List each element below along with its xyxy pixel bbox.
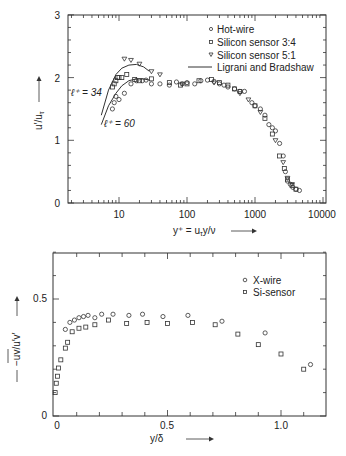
square-marker [77, 326, 81, 330]
legend-silicon-51: Silicon sensor 5:1 [217, 50, 296, 61]
circle-marker [110, 107, 114, 111]
top-chart: 3 2 1 0 10 100 1000 10000 u′/uτ y⁺ = uτy… [33, 10, 336, 237]
square-marker [145, 320, 149, 324]
circle-marker [111, 312, 115, 316]
circle-marker [277, 141, 281, 145]
bottom-ticks [53, 252, 326, 416]
square-marker [57, 366, 61, 370]
square-marker [84, 325, 88, 329]
square-marker [55, 374, 59, 378]
circle-marker [267, 123, 271, 127]
triangle-marker [149, 70, 154, 74]
legend-silicon-34: Silicon sensor 3:4 [217, 37, 296, 48]
bottom-legend: X-wire Si-sensor [243, 275, 296, 298]
square-marker [213, 323, 217, 327]
circle-marker [217, 82, 221, 86]
circle-marker [86, 313, 90, 317]
arrow-up-icon [15, 296, 20, 301]
circle-marker [149, 82, 153, 86]
legend-x-wire: X-wire [253, 275, 282, 286]
circle-marker [93, 316, 97, 320]
top-xtick-1000: 1000 [244, 209, 267, 220]
circle-marker [185, 81, 189, 85]
arrow-right-icon [209, 437, 214, 442]
svg-text:y⁺ = uτy/ν: y⁺ = uτy/ν [173, 225, 216, 237]
circle-marker [263, 331, 267, 335]
top-xtick-10: 10 [113, 209, 125, 220]
circle-marker [127, 313, 131, 317]
circle-marker [129, 82, 133, 86]
top-xlabel: y⁺ = uτy/ν [173, 225, 257, 237]
top-xtick-100: 100 [179, 209, 196, 220]
square-marker [125, 72, 129, 76]
circle-marker [77, 316, 81, 320]
arrow-right-icon [252, 229, 257, 234]
legend-ligrani: Ligrani and Bradshaw [217, 62, 315, 73]
circle-marker [161, 314, 165, 318]
circle-marker [112, 101, 116, 105]
top-ylabel: u′/uτ [33, 76, 45, 130]
annotation-l34: ℓ⁺ = 34 [70, 87, 102, 98]
square-marker [120, 76, 124, 80]
circle-marker [193, 82, 197, 86]
bottom-ytick-0: 0 [41, 410, 47, 421]
square-marker [70, 330, 74, 334]
circle-marker [158, 82, 162, 86]
top-ytick-2: 2 [54, 73, 60, 84]
bottom-series [53, 312, 312, 394]
svg-text:u′/uτ: u′/uτ [33, 111, 45, 130]
circle-marker [122, 91, 126, 95]
triangle-marker [122, 57, 127, 61]
square-marker [93, 323, 97, 327]
bottom-xtick-10: 1.0 [274, 420, 288, 431]
circle-marker [205, 78, 209, 82]
square-marker [66, 340, 70, 344]
bottom-xtick-05: 0.5 [160, 420, 174, 431]
circle-marker [117, 97, 121, 101]
triangle-marker [129, 58, 134, 62]
ligrani-curve [101, 64, 149, 115]
triangle-marker [281, 161, 286, 165]
triangle-marker [273, 139, 278, 143]
bottom-chart: 0.5 0 0 0.5 1.0 −uv/u′v′ y/δ X-wire Si-s… [8, 252, 326, 444]
square-marker [236, 332, 240, 336]
triangle-marker [158, 73, 163, 77]
legend-si-sensor: Si-sensor [253, 287, 296, 298]
top-xtick-10000: 10000 [308, 209, 336, 220]
circle-marker [232, 87, 236, 91]
circle-marker [72, 318, 76, 322]
square-marker [166, 322, 170, 326]
circle-marker [81, 314, 85, 318]
square-marker [63, 346, 67, 350]
circle-marker [63, 327, 67, 331]
legend-circle-icon [209, 27, 212, 30]
square-marker [256, 343, 260, 347]
legend-square-icon [210, 41, 213, 44]
arrow-up-icon [37, 76, 42, 81]
circle-marker [68, 320, 72, 324]
circle-marker [100, 312, 104, 316]
circle-marker [242, 89, 246, 93]
square-marker [302, 367, 306, 371]
legend-square-icon [244, 291, 247, 294]
circle-marker [308, 362, 312, 366]
top-ytick-3: 3 [54, 10, 60, 21]
square-marker [54, 381, 58, 385]
legend-circle-icon [243, 278, 247, 282]
square-marker [125, 322, 129, 326]
circle-marker [253, 104, 257, 108]
bottom-ylabel: −uv/u′v′ [8, 296, 22, 382]
bottom-xlabel: y/δ [150, 433, 214, 444]
circle-marker [167, 83, 171, 87]
square-marker [59, 358, 63, 362]
legend-triangle-icon [209, 53, 213, 57]
circle-marker [140, 312, 144, 316]
square-marker [106, 318, 110, 322]
circle-marker [174, 80, 178, 84]
circle-marker [222, 83, 226, 87]
bottom-plot-frame [53, 253, 326, 416]
top-legend: Hot-wire Silicon sensor 3:4 Silicon sens… [188, 24, 315, 73]
annotation-l60: ℓ⁺ = 60 [103, 118, 135, 129]
top-ytick-0: 0 [54, 198, 60, 209]
square-marker [149, 77, 153, 81]
